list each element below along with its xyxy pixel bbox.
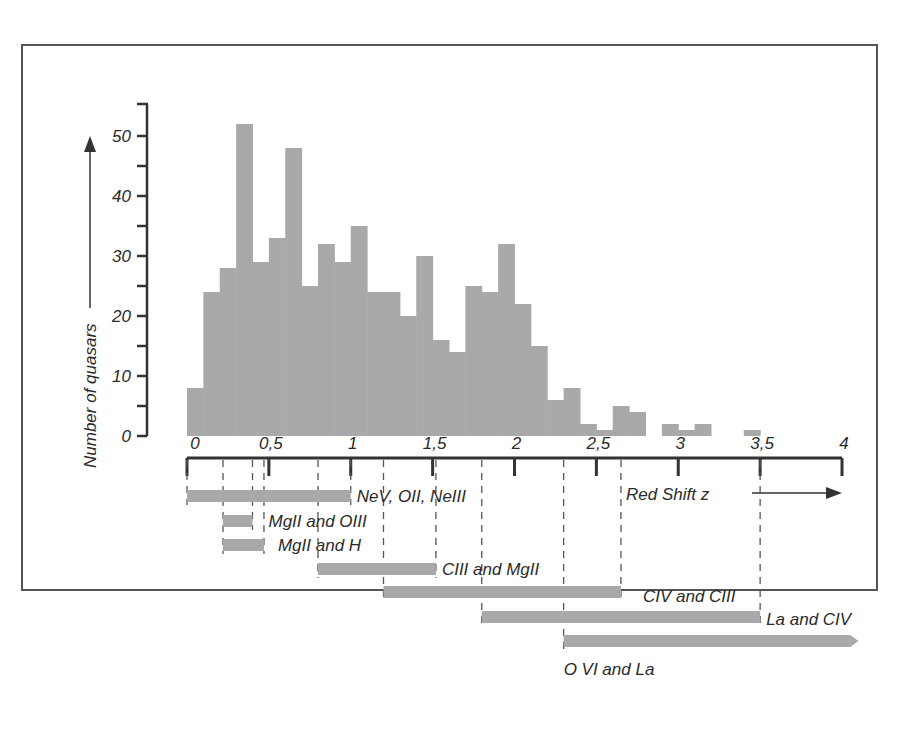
histogram-bar	[400, 316, 417, 436]
x-tick-label: 1	[348, 434, 357, 453]
x-tick-label: 3,5	[750, 434, 774, 453]
x-tick-label: 1,5	[423, 434, 447, 453]
histogram-bar	[695, 424, 712, 436]
histogram-bar	[269, 238, 286, 436]
histogram-bar	[564, 388, 581, 436]
y-tick-label: 20	[111, 307, 131, 326]
x-tick-label: 0	[190, 434, 200, 453]
histogram-bar	[367, 292, 384, 436]
redshift-histogram-chart: 01020304050 00,511,522,533,54 NeV, OII, …	[0, 0, 914, 729]
range-label: CIV and CIII	[643, 587, 736, 606]
histogram-bar	[220, 268, 237, 436]
y-axis-title: Number of quasars	[81, 323, 100, 468]
histogram-bar	[253, 262, 270, 436]
y-tick-label: 10	[112, 367, 131, 386]
histogram-bar	[302, 286, 319, 436]
y-tick-label: 40	[112, 187, 131, 206]
y-tick-label: 0	[122, 427, 132, 446]
histogram-bar	[318, 244, 335, 436]
x-tick-label: 0,5	[259, 434, 283, 453]
range-label: NeV, OII, NeIII	[357, 487, 467, 506]
histogram-bar	[416, 256, 433, 436]
x-tick-label: 4	[839, 434, 848, 453]
y-tick-label: 50	[112, 127, 131, 146]
range-bar	[223, 539, 264, 551]
range-bar	[318, 563, 436, 575]
range-bar	[482, 611, 760, 623]
histogram-bar	[203, 292, 220, 436]
histogram-bar	[515, 304, 532, 436]
x-tick-label: 2,5	[586, 434, 611, 453]
range-bar	[223, 515, 252, 527]
range-label: La and CIV	[766, 610, 853, 629]
histogram-bar	[482, 292, 499, 436]
histogram-bar	[613, 406, 630, 436]
histogram-bar	[498, 244, 515, 436]
x-tick-label: 3	[676, 434, 686, 453]
range-label: MgII and OIII	[269, 512, 368, 531]
y-axis: 01020304050	[111, 104, 148, 446]
range-label: MgII and H	[278, 536, 362, 555]
histogram-bar	[465, 286, 482, 436]
range-bar	[384, 586, 621, 598]
histogram-bar	[334, 262, 351, 436]
range-bar	[564, 635, 859, 647]
histogram-bar	[187, 388, 204, 436]
x-axis: 00,511,522,533,54	[187, 434, 849, 476]
range-bar	[187, 490, 351, 502]
range-label: CIII and MgII	[442, 560, 540, 579]
range-label: O VI and La	[564, 660, 655, 679]
y-axis-arrow-icon	[84, 136, 96, 152]
x-axis-title: Red Shift z	[626, 485, 710, 504]
histogram-bar	[629, 412, 646, 436]
histogram-bar	[351, 226, 368, 436]
x-axis-arrow-icon	[826, 487, 842, 499]
histogram-bar	[285, 148, 302, 436]
histogram-bar	[531, 346, 548, 436]
x-tick-label: 2	[511, 434, 522, 453]
histogram-bars	[187, 124, 761, 436]
histogram-bar	[433, 340, 450, 436]
histogram-bar	[449, 352, 466, 436]
histogram-bar	[384, 292, 401, 436]
histogram-bar	[547, 400, 564, 436]
histogram-bar	[236, 124, 253, 436]
y-tick-label: 30	[112, 247, 131, 266]
